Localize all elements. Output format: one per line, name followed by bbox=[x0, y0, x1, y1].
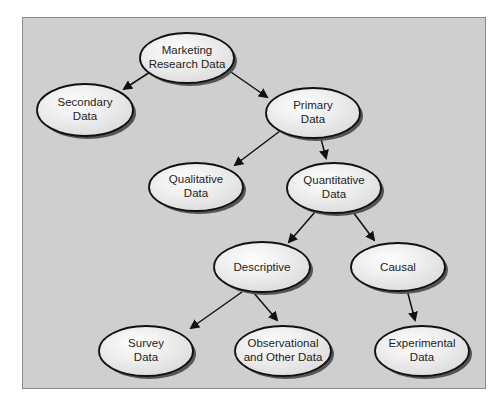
edge-quantitative-causal bbox=[353, 212, 374, 240]
svg-text:Quantitative: Quantitative bbox=[303, 174, 364, 186]
node-quantitative-data: Quantitative Data bbox=[287, 163, 384, 216]
svg-text:Data: Data bbox=[301, 113, 326, 125]
svg-text:and Other Data: and Other Data bbox=[244, 351, 323, 363]
svg-text:Descriptive: Descriptive bbox=[234, 261, 291, 273]
svg-text:Secondary: Secondary bbox=[58, 96, 113, 108]
svg-text:Primary: Primary bbox=[293, 99, 333, 111]
hierarchy-diagram: Marketing Research Data Secondary Data P… bbox=[0, 0, 501, 407]
edge-descriptive-survey bbox=[191, 292, 242, 328]
node-qualitative-data: Qualitative Data bbox=[149, 163, 246, 214]
svg-text:Data: Data bbox=[184, 187, 209, 199]
svg-text:Marketing: Marketing bbox=[162, 44, 213, 56]
svg-text:Research Data: Research Data bbox=[149, 58, 226, 70]
node-marketing-research-data: Marketing Research Data bbox=[140, 33, 237, 86]
svg-text:Observational: Observational bbox=[248, 337, 319, 349]
node-experimental-data: Experimental Data bbox=[375, 326, 472, 379]
node-survey-data: Survey Data bbox=[99, 326, 196, 379]
svg-text:Data: Data bbox=[410, 351, 435, 363]
svg-text:Data: Data bbox=[322, 188, 347, 200]
edge-primary-qualitative bbox=[235, 131, 280, 165]
svg-text:Data: Data bbox=[73, 110, 98, 122]
svg-text:Qualitative: Qualitative bbox=[169, 173, 223, 185]
node-descriptive: Descriptive bbox=[214, 242, 313, 295]
svg-text:Survey: Survey bbox=[128, 337, 164, 349]
edge-causal-experimental bbox=[407, 290, 415, 320]
node-causal: Causal bbox=[351, 243, 448, 294]
svg-text:Experimental: Experimental bbox=[388, 337, 455, 349]
edge-descriptive-observational bbox=[253, 292, 277, 320]
node-secondary-data: Secondary Data bbox=[37, 84, 136, 139]
svg-text:Causal: Causal bbox=[380, 261, 416, 273]
edge-root-secondary bbox=[124, 72, 150, 89]
edge-root-primary bbox=[228, 70, 267, 97]
svg-text:Data: Data bbox=[134, 351, 159, 363]
node-primary-data: Primary Data bbox=[266, 88, 363, 141]
node-observational-and-other-data: Observational and Other Data bbox=[235, 326, 334, 379]
edge-quantitative-descriptive bbox=[289, 212, 315, 242]
